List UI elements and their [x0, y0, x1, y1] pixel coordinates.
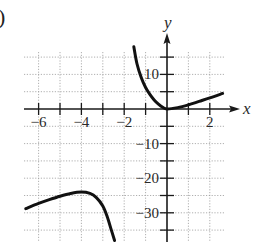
y-tick-label: −30: [136, 205, 159, 221]
x-tick-label: 2: [206, 114, 214, 130]
x-axis-label: x: [242, 99, 251, 118]
y-tick-label: −20: [136, 170, 159, 186]
x-tick-label: −4: [73, 114, 89, 130]
y-tick-label: 10: [144, 66, 159, 82]
tick-labels: −6−4−2210−10−20−30xy: [31, 13, 251, 221]
graph: −6−4−2210−10−20−30xy: [0, 0, 256, 246]
y-axis-label: y: [162, 13, 172, 32]
axes: [24, 33, 240, 242]
x-tick-label: −6: [31, 114, 47, 130]
grid: [24, 52, 224, 242]
y-tick-label: −10: [136, 136, 159, 152]
x-tick-label: −2: [116, 114, 132, 130]
curve-left-branch: [26, 192, 115, 240]
